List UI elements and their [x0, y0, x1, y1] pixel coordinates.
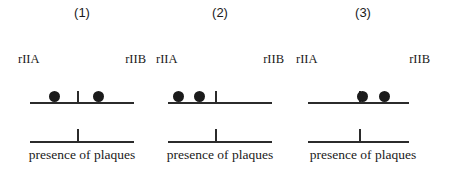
gene-label-row: rIIA rIIB — [18, 52, 146, 68]
lower-bar-tick — [359, 129, 361, 142]
lower-bar-tick — [215, 129, 217, 142]
panel-1: (1) rIIA rIIB presence of plaques — [18, 0, 146, 178]
gene-label-rIIB: rIIB — [409, 52, 430, 67]
upper-chromosome-bar — [30, 102, 134, 104]
plaque-dot — [357, 91, 368, 102]
gene-label-rIIB: rIIB — [125, 52, 146, 67]
plaque-dot — [93, 91, 104, 102]
panel-number-label: (3) — [296, 5, 430, 20]
panel-number-label: (1) — [18, 5, 146, 20]
plaque-dot — [173, 91, 184, 102]
gene-label-rIIA: rIIA — [156, 52, 178, 67]
plaque-dot — [379, 91, 390, 102]
panel-number-label: (2) — [156, 5, 284, 20]
upper-chromosome-bar — [168, 102, 272, 104]
gene-label-row: rIIA rIIB — [156, 52, 284, 68]
upper-bar-tick — [77, 91, 79, 103]
panel-2: (2) rIIA rIIB presence of plaques — [156, 0, 284, 178]
plaque-dot — [194, 91, 205, 102]
panel-caption: presence of plaques — [18, 147, 146, 163]
lower-plaque-bar — [30, 141, 134, 143]
plaque-dot — [49, 91, 60, 102]
panel-3: (3) rIIA rIIB presence of plaques — [296, 0, 430, 178]
lower-bar-tick — [77, 129, 79, 142]
panel-caption: presence of plaques — [156, 147, 284, 163]
rII-complementation-figure: (1) rIIA rIIB presence of plaques (2) rI… — [0, 0, 453, 178]
gene-label-rIIB: rIIB — [263, 52, 284, 67]
gene-label-rIIA: rIIA — [296, 52, 318, 67]
upper-bar-tick — [215, 91, 217, 103]
panel-caption: presence of plaques — [296, 147, 430, 163]
lower-plaque-bar — [168, 141, 272, 143]
gene-label-rIIA: rIIA — [18, 52, 40, 67]
gene-label-row: rIIA rIIB — [296, 52, 430, 68]
